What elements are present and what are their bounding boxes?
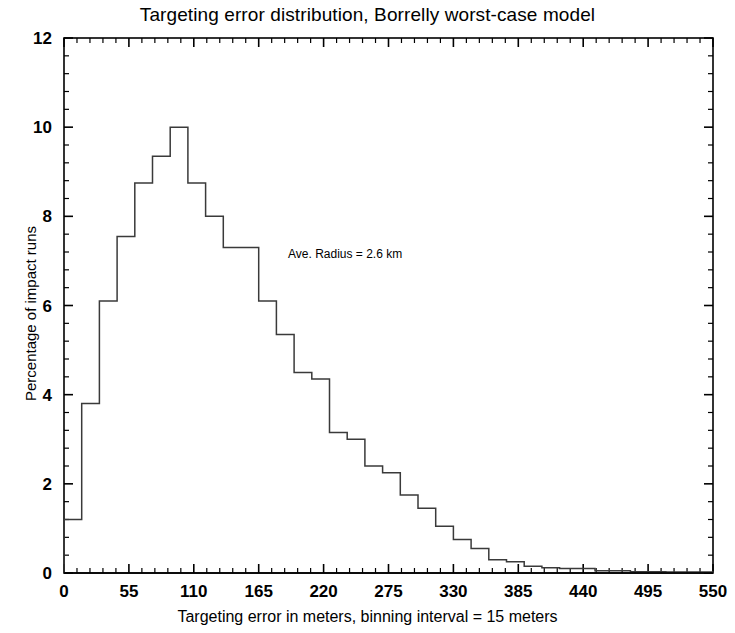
x-axis-tick-label: 0 [59,582,68,601]
y-axis-tick-label: 8 [43,207,52,226]
histogram-step-line [64,127,713,573]
y-axis-tick-label: 4 [43,386,53,405]
x-axis-tick-label: 330 [439,582,467,601]
y-axis-tick-label: 12 [33,29,52,48]
x-axis-tick-label: 385 [504,582,532,601]
average-radius-annotation: Ave. Radius = 2.6 km [288,247,402,261]
x-axis-tick-label: 440 [569,582,597,601]
y-axis-tick-label: 2 [43,475,52,494]
y-axis-label: Percentage of impact runs [22,184,39,444]
x-axis-tick-label: 110 [180,582,207,601]
x-axis-tick-label: 165 [245,582,273,601]
x-axis-tick-label: 220 [309,582,337,601]
chart-page: Targeting error distribution, Borrelly w… [0,0,735,633]
x-axis-tick-label: 495 [634,582,662,601]
x-axis-tick-label: 550 [699,582,727,601]
y-axis-tick-label: 10 [33,118,52,137]
y-axis-tick-label: 6 [43,297,52,316]
x-axis-label: Targeting error in meters, binning inter… [0,608,735,626]
histogram-plot: 055110165220275330385440495550024681012 [0,0,735,633]
plot-frame [64,38,713,573]
x-axis-tick-label: 275 [374,582,402,601]
x-axis-tick-label: 55 [119,582,138,601]
y-axis-tick-label: 0 [43,564,52,583]
